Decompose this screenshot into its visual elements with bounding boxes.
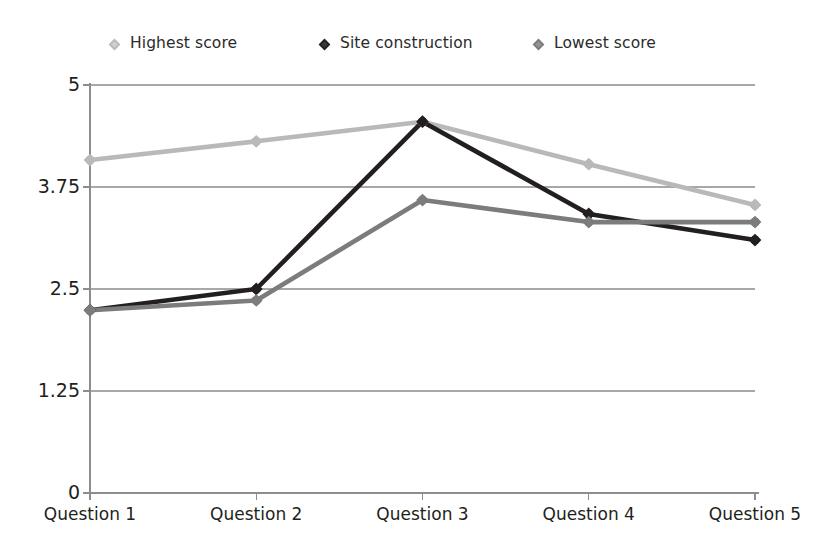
axis-lines	[84, 83, 759, 499]
x-axis-tick-label: Question 1	[44, 504, 136, 524]
plot-area: 53.752.51.250 Question 1Question 2Questi…	[0, 0, 822, 557]
plot-svg	[0, 0, 822, 557]
x-axis-tick-label: Question 5	[709, 504, 801, 524]
y-axis-tick-text: 1.25	[38, 379, 80, 401]
series-markers	[84, 115, 762, 316]
y-axis-tick-text: 2.5	[50, 277, 80, 299]
x-axis-tick-label: Question 3	[376, 504, 468, 524]
y-axis-tick-text: 0	[68, 481, 80, 503]
x-axis-tick-label: Question 2	[210, 504, 302, 524]
x-axis-tick-label: Question 4	[543, 504, 635, 524]
y-axis-tick-text: 5	[68, 73, 80, 95]
y-axis-tick-text: 3.75	[38, 175, 80, 197]
gridlines	[90, 85, 755, 493]
line-chart: Highest score Site construction Lowest s…	[0, 0, 822, 557]
series-lines	[90, 122, 755, 310]
